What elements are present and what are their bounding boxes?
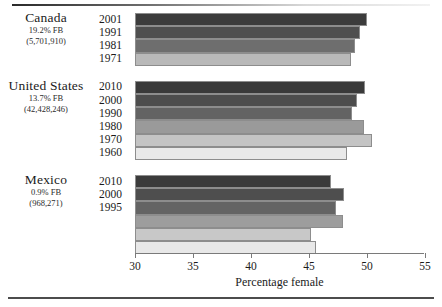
bar: [135, 39, 355, 52]
group-foreign-born-count: (968,271): [8, 198, 84, 209]
axis-tick-label: 50: [352, 260, 382, 272]
group-label-canada: Canada19.2% FB(5,701,910): [8, 11, 84, 47]
bar: [135, 81, 365, 94]
axis-tick: [425, 253, 426, 258]
x-axis-title: Percentage female: [135, 275, 424, 290]
bar: [135, 134, 372, 147]
category-label: 1995: [88, 202, 122, 214]
bar: [135, 228, 311, 241]
group-foreign-born-count: (42,428,246): [8, 104, 84, 115]
axis-tick: [367, 253, 368, 258]
axis-tick-label: 55: [410, 260, 440, 272]
x-axis: Percentage female 303540455055: [135, 253, 427, 293]
category-label: 2000: [88, 189, 122, 201]
bar: [135, 147, 347, 160]
group-name: Mexico: [8, 173, 84, 187]
bottom-divider-rule: [8, 297, 434, 299]
group-foreign-born-pct: 19.2% FB: [8, 25, 84, 36]
group-label-mexico: Mexico0.9% FB(968,271): [8, 173, 84, 209]
category-label: 1990: [88, 108, 122, 120]
category-label: 2010: [88, 81, 122, 93]
axis-tick: [309, 253, 310, 258]
axis-tick-label: 45: [294, 260, 324, 272]
axis-tick-label: 30: [120, 260, 150, 272]
category-label-column: 2001199119811971201020001990198019701960…: [86, 0, 122, 307]
category-label: 1970: [88, 134, 122, 146]
axis-tick: [193, 253, 194, 258]
group-foreign-born-pct: 13.7% FB: [8, 93, 84, 104]
bar: [135, 26, 360, 39]
category-label: 2000: [88, 95, 122, 107]
bar: [135, 188, 344, 201]
category-label: 1991: [88, 27, 122, 39]
bar: [135, 201, 336, 214]
category-label: 1971: [88, 53, 122, 65]
group-label-united-states: United States13.7% FB(42,428,246): [8, 79, 84, 115]
bar: [135, 215, 343, 228]
category-label: 2010: [88, 176, 122, 188]
axis-tick: [135, 253, 136, 258]
group-foreign-born-pct: 0.9% FB: [8, 187, 84, 198]
category-label: 1980: [88, 121, 122, 133]
axis-tick: [251, 253, 252, 258]
axis-line: [135, 253, 424, 254]
group-name: United States: [8, 79, 84, 93]
bar: [135, 120, 364, 133]
category-label: 1960: [88, 147, 122, 159]
axis-tick-label: 40: [236, 260, 266, 272]
bar: [135, 13, 367, 26]
category-label: 2001: [88, 14, 122, 26]
axis-tick-label: 35: [178, 260, 208, 272]
category-label: 1981: [88, 40, 122, 52]
top-divider-rule: [12, 4, 430, 6]
chart-figure: Canada19.2% FB(5,701,910)United States13…: [0, 0, 442, 307]
group-foreign-born-count: (5,701,910): [8, 36, 84, 47]
bar: [135, 53, 351, 66]
bar: [135, 175, 331, 188]
bar: [135, 94, 357, 107]
group-name: Canada: [8, 11, 84, 25]
plot-area: [135, 8, 425, 253]
bar: [135, 107, 352, 120]
